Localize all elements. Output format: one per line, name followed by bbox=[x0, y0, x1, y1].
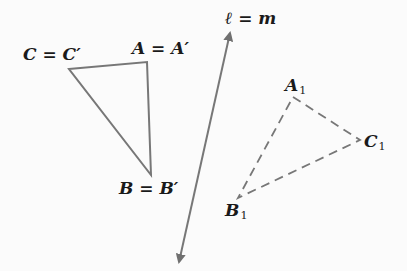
vertex-label-b1: B1 bbox=[225, 202, 247, 221]
vertex-label-c1: C1 bbox=[364, 133, 386, 152]
vertex-label-c: C = C′ bbox=[23, 46, 81, 63]
vertex-label-a: A = A′ bbox=[132, 40, 189, 57]
diagram-svg bbox=[0, 0, 407, 271]
vertex-label-a1-sub: 1 bbox=[299, 84, 306, 97]
reflection-line bbox=[179, 33, 230, 262]
diagram-canvas: ℓ = m C = C′ A = A′ B = B′ A1 C1 B1 bbox=[0, 0, 407, 271]
vertex-label-b1-sub: 1 bbox=[240, 209, 247, 222]
line-label: ℓ = m bbox=[225, 10, 276, 27]
triangle-abc bbox=[69, 62, 151, 175]
vertex-label-b1-letter: B bbox=[225, 200, 239, 220]
vertex-label-a1-letter: A bbox=[285, 75, 298, 95]
triangle-a1b1c1 bbox=[238, 97, 360, 198]
vertex-label-a1: A1 bbox=[285, 77, 306, 96]
vertex-label-b: B = B′ bbox=[119, 180, 178, 197]
vertex-label-c1-letter: C bbox=[364, 131, 378, 151]
vertex-label-c1-sub: 1 bbox=[379, 140, 386, 153]
